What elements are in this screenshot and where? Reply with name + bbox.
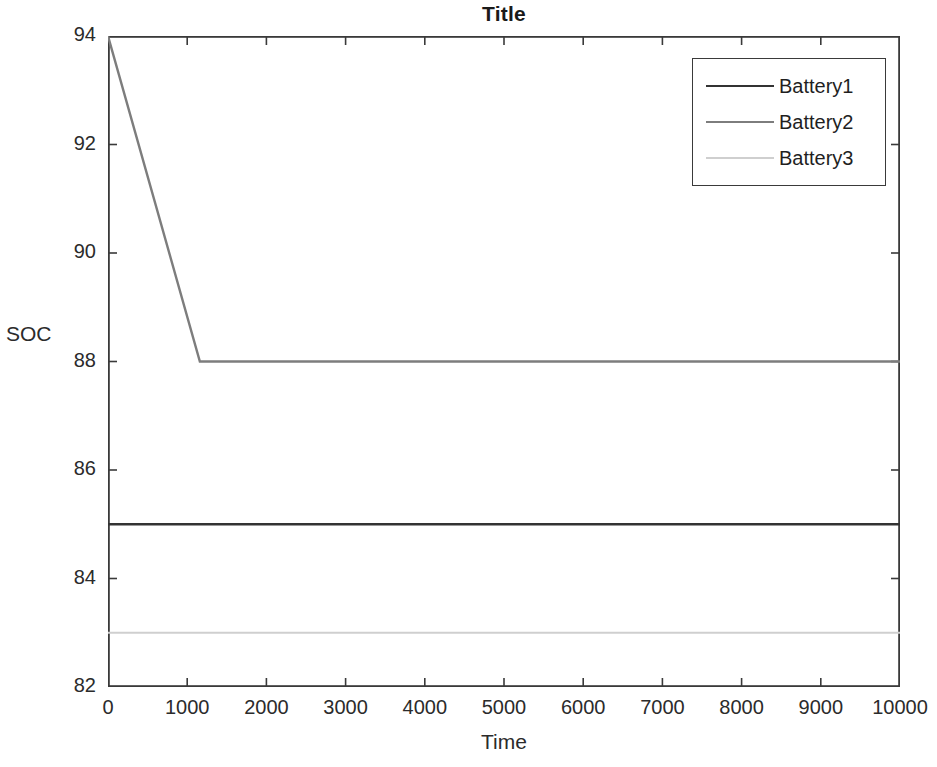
y-tick-label: 92	[40, 132, 96, 155]
chart-title: Title	[108, 2, 900, 26]
x-axis-label: Time	[108, 730, 900, 754]
y-tick-label: 82	[40, 674, 96, 697]
y-tick-label: 94	[40, 23, 96, 46]
legend-label: Battery2	[779, 111, 853, 134]
figure-canvas: Title SOC Time 82848688909294 0100020003…	[0, 0, 937, 767]
legend-swatch-battery2	[706, 121, 774, 123]
x-tick-label: 8000	[697, 696, 787, 719]
x-tick-label: 4000	[380, 696, 470, 719]
y-tick-label: 88	[40, 349, 96, 372]
legend-swatch-battery3	[706, 157, 774, 159]
x-tick-label: 10000	[855, 696, 937, 719]
legend-box: Battery1Battery2Battery3	[692, 58, 886, 186]
y-tick-label: 90	[40, 240, 96, 263]
x-tick-label: 6000	[538, 696, 628, 719]
legend-label: Battery3	[779, 147, 853, 170]
legend-item-battery2[interactable]: Battery2	[693, 107, 887, 137]
x-tick-label: 9000	[776, 696, 866, 719]
legend-label: Battery1	[779, 75, 853, 98]
legend-item-battery1[interactable]: Battery1	[693, 71, 887, 101]
x-tick-label: 7000	[617, 696, 707, 719]
x-tick-label: 0	[63, 696, 153, 719]
legend-item-battery3[interactable]: Battery3	[693, 143, 887, 173]
y-tick-label: 86	[40, 457, 96, 480]
x-tick-label: 2000	[221, 696, 311, 719]
y-axis-label: SOC	[6, 322, 52, 346]
legend-swatch-battery1	[706, 85, 774, 87]
x-tick-label: 1000	[142, 696, 232, 719]
x-tick-label: 5000	[459, 696, 549, 719]
x-tick-label: 3000	[301, 696, 391, 719]
y-tick-label: 84	[40, 566, 96, 589]
